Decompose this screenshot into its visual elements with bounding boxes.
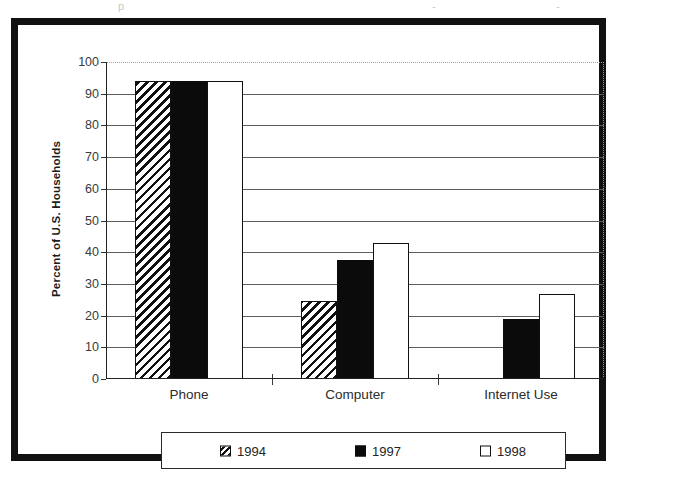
y-axis-line <box>106 62 107 379</box>
legend-label: 1994 <box>237 443 266 458</box>
bar-phone-1997 <box>171 81 207 379</box>
legend-label: 1997 <box>372 443 401 458</box>
legend-swatch-1998 <box>480 445 491 456</box>
y-tick-label: 50 <box>85 214 99 228</box>
bar-computer-1994 <box>301 301 337 379</box>
y-tick-label: 60 <box>85 182 99 196</box>
legend-swatch-1994 <box>220 445 231 456</box>
bar-phone-1994 <box>135 81 171 379</box>
x-tick-label: Internet Use <box>484 387 558 402</box>
y-tick-label: 100 <box>78 55 99 69</box>
plot-area: 0102030405060708090100 <box>106 62 604 379</box>
figure-inner: Percent of U.S. Households 0102030405060… <box>18 25 599 454</box>
y-tick-label: 80 <box>85 118 99 132</box>
y-tick-label: 20 <box>85 309 99 323</box>
legend-item-1997[interactable]: 1997 <box>355 443 401 458</box>
y-axis-title: Percent of U.S. Households <box>50 119 62 319</box>
y-tick-label: 0 <box>92 372 99 386</box>
bar-computer-1997 <box>337 260 373 379</box>
figure-frame: Percent of U.S. Households 0102030405060… <box>11 18 606 461</box>
chart-legend: 199419971998 <box>161 432 566 469</box>
scan-artifact-left: p <box>118 0 126 12</box>
category-tick <box>438 374 439 385</box>
y-tick-mark <box>101 379 106 380</box>
y-tick-label: 70 <box>85 150 99 164</box>
legend-swatch-1997 <box>355 445 366 456</box>
bar-internet-use-1998 <box>539 294 575 379</box>
x-axis-line <box>106 378 604 379</box>
legend-label: 1998 <box>497 443 526 458</box>
y-tick-label: 10 <box>85 340 99 354</box>
bar-phone-1998 <box>207 81 243 379</box>
scan-artifact-right: - <box>556 0 562 12</box>
legend-item-1994[interactable]: 1994 <box>220 443 266 458</box>
bars-layer <box>106 62 604 379</box>
x-tick-label: Phone <box>169 387 208 402</box>
scan-artifact-middle: - <box>432 0 438 12</box>
legend-item-1998[interactable]: 1998 <box>480 443 526 458</box>
y-tick-label: 30 <box>85 277 99 291</box>
category-tick <box>272 374 273 385</box>
y-tick-label: 40 <box>85 245 99 259</box>
x-axis-labels: PhoneComputerInternet Use <box>106 387 604 411</box>
scan-artifact-band: p - - <box>0 0 693 18</box>
x-tick-label: Computer <box>325 387 384 402</box>
legend-row: 199419971998 <box>162 433 565 468</box>
y-tick-label: 90 <box>85 87 99 101</box>
bar-internet-use-1997 <box>503 319 539 379</box>
bar-chart: Percent of U.S. Households 0102030405060… <box>18 25 599 454</box>
bar-computer-1998 <box>373 243 409 379</box>
